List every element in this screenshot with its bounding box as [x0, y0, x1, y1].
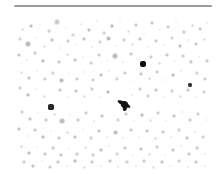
star-point — [115, 77, 118, 80]
star-point — [129, 52, 132, 55]
star-point — [172, 114, 176, 118]
star-point — [175, 21, 177, 23]
star-point — [186, 88, 190, 92]
star-point — [113, 130, 118, 135]
star-point — [158, 62, 161, 65]
star-point — [140, 113, 145, 118]
star-point — [163, 96, 166, 99]
star-point — [150, 21, 154, 25]
star-point — [149, 119, 152, 122]
star-point — [97, 53, 101, 57]
star-point — [115, 152, 118, 155]
star-point — [171, 148, 175, 152]
star-point — [160, 160, 164, 164]
star-point — [198, 56, 201, 59]
star-point — [51, 71, 54, 74]
star-point — [195, 146, 198, 149]
star-point — [66, 53, 69, 56]
star-point — [180, 70, 183, 73]
star-point — [155, 70, 158, 73]
star-point — [56, 160, 60, 164]
star-point — [123, 146, 127, 150]
star-point — [181, 111, 184, 114]
star-point — [25, 41, 31, 47]
star-point — [187, 166, 190, 169]
star-point — [66, 165, 68, 167]
star-point — [76, 118, 80, 122]
star-point — [164, 154, 166, 156]
star-point — [166, 25, 169, 28]
star-point — [201, 135, 204, 138]
star-point — [164, 79, 167, 82]
star-point — [138, 37, 142, 41]
star-point — [147, 46, 150, 49]
star-point — [129, 128, 132, 131]
star-point — [204, 153, 207, 156]
star-point — [102, 31, 105, 34]
secondary-star-marker — [48, 104, 53, 109]
star-point — [170, 36, 173, 39]
star-point — [108, 159, 112, 163]
star-point — [26, 135, 29, 138]
star-point — [117, 166, 120, 169]
star-point — [194, 131, 197, 134]
star-point — [26, 93, 31, 98]
star-point — [106, 36, 111, 41]
star-point — [43, 95, 46, 98]
star-point — [205, 119, 208, 122]
star-point — [159, 29, 162, 32]
star-point — [41, 135, 46, 140]
star-point — [84, 146, 87, 149]
star-point — [93, 120, 96, 123]
star-point — [143, 33, 146, 36]
star-point — [180, 145, 183, 148]
star-point — [106, 136, 109, 139]
star-point — [131, 43, 134, 46]
star-point — [57, 136, 61, 140]
star-point — [75, 77, 79, 81]
star-point — [161, 130, 165, 134]
star-point — [69, 114, 72, 117]
star-point — [194, 160, 198, 164]
star-point — [122, 137, 125, 140]
star-point — [18, 86, 21, 89]
star-point — [165, 53, 169, 57]
star-point — [91, 78, 94, 81]
star-point — [138, 136, 140, 138]
star-point — [59, 153, 63, 157]
star-point — [170, 89, 173, 92]
star-point — [68, 148, 71, 151]
star-point — [191, 24, 194, 27]
elongated-object-tail — [122, 105, 128, 112]
star-point — [84, 111, 87, 114]
star-point — [131, 94, 134, 97]
star-point — [134, 23, 138, 27]
star-point — [17, 127, 21, 131]
star-point — [41, 59, 46, 64]
star-point — [35, 37, 37, 39]
star-point — [29, 24, 33, 28]
star-point — [36, 70, 38, 72]
star-point — [75, 152, 79, 156]
star-point — [33, 128, 36, 131]
star-point — [50, 130, 52, 132]
star-point — [109, 111, 111, 113]
star-point — [37, 112, 39, 114]
star-point — [31, 164, 35, 168]
star-point — [58, 88, 62, 92]
star-point — [59, 78, 64, 83]
star-point — [204, 165, 206, 167]
star-point — [73, 159, 78, 164]
star-point — [106, 90, 111, 95]
star-point — [124, 112, 128, 116]
star-point — [198, 27, 202, 31]
star-point — [148, 153, 151, 156]
bright-star-marker — [140, 61, 146, 67]
horizontal-rule — [14, 5, 212, 7]
star-point — [27, 151, 32, 156]
star-point — [43, 152, 47, 156]
star-point — [99, 96, 101, 98]
star-point — [20, 71, 23, 74]
star-point — [203, 77, 207, 81]
star-point — [50, 55, 52, 57]
